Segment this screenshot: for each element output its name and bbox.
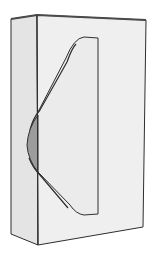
box-drawing [0, 0, 155, 262]
box-illustration [0, 0, 155, 262]
